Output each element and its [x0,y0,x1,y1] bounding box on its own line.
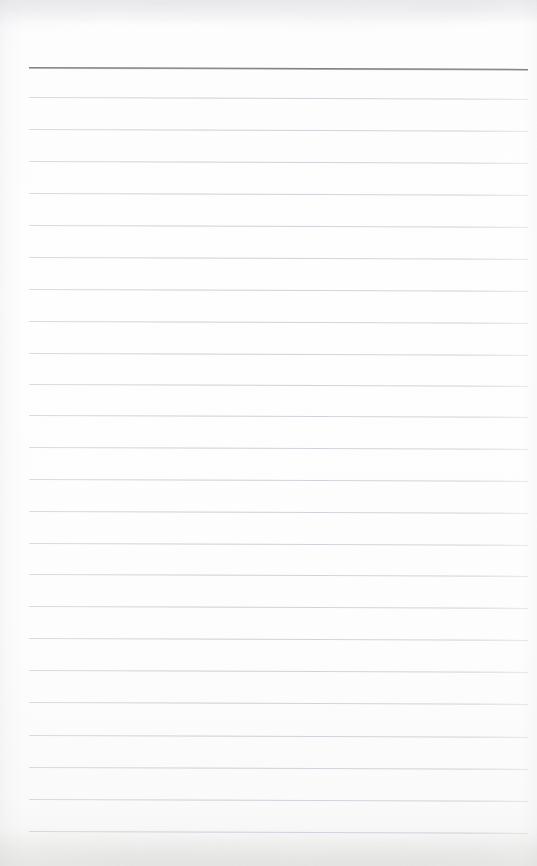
page-edge-shadow-top [0,0,537,24]
page-edge-shadow-left [0,0,26,866]
writing-line-slot-18[interactable] [29,607,528,638]
writing-line-slot-1[interactable] [29,68,528,97]
writing-line-slot-16[interactable] [29,544,528,574]
writing-line-slot-11[interactable] [29,385,528,415]
writing-line-slot-21[interactable] [29,703,528,735]
writing-line-slot-4[interactable] [29,162,528,193]
writing-line-slot-17[interactable] [29,575,528,606]
writing-line-slot-3[interactable] [29,130,528,161]
writing-line-slot-22[interactable] [29,736,528,767]
writing-line-slot-12[interactable] [29,416,528,447]
scanned-page [0,0,537,866]
page-edge-shadow-bottom [0,826,537,866]
writing-line-slot-9[interactable] [29,322,528,353]
writing-line-slot-20[interactable] [29,671,528,702]
writing-line-slot-2[interactable] [29,98,528,129]
writing-line-slot-14[interactable] [29,480,528,511]
writing-line-slot-7[interactable] [29,258,528,289]
writing-line-slot-13[interactable] [29,448,528,479]
writing-line-slot-19[interactable] [29,639,528,670]
writing-line-slot-24[interactable] [29,800,528,831]
writing-line-slot-6[interactable] [29,226,528,257]
writing-line-slot-10[interactable] [29,354,528,384]
writing-line-slot-8[interactable] [29,290,528,321]
writing-line-slot-5[interactable] [29,194,528,225]
writing-line-slot-15[interactable] [29,512,528,543]
writing-line-slot-23[interactable] [29,768,528,799]
